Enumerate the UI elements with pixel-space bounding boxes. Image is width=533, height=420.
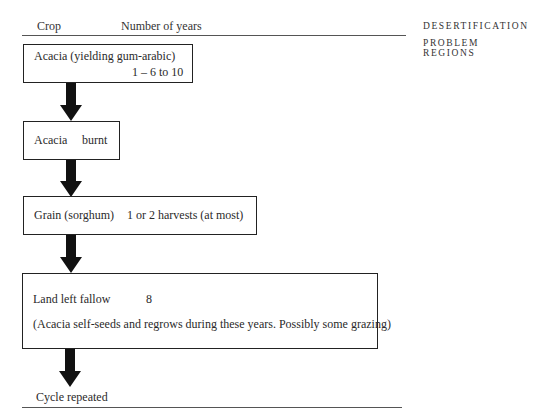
step-crop-label: Acacia [34,133,67,148]
flow-arrow-down-icon [60,235,82,273]
column-header-years: Number of years [121,19,202,34]
step-years-value: 1 – 6 to 10 [132,65,183,80]
bottom-rule [22,407,402,408]
flow-arrow-down-icon [60,83,82,121]
top-rule [22,35,406,36]
flow-arrow-down-icon [59,349,81,387]
step-crop-label: Land left fallow [33,292,110,307]
flow-arrow-down-icon [60,160,82,197]
step-box-fallow: Land left fallow 8 (Acacia self-seeds an… [22,273,378,349]
step-box-acacia-burnt: Acacia burnt [23,121,120,160]
step-box-grain: Grain (sorghum) 1 or 2 harvests (at most… [23,196,257,235]
step-box-acacia-gum: Acacia (yielding gum-arabic) 1 – 6 to 10 [23,44,193,83]
cycle-repeated-label: Cycle repeated [36,390,108,405]
side-title-line2: PROBLEM REGIONS [423,38,533,58]
step-years-value: burnt [82,133,107,148]
column-header-crop: Crop [37,19,61,34]
step-years-value: 1 or 2 harvests (at most) [127,208,243,223]
step-note: (Acacia self-seeds and regrows during th… [33,317,391,332]
step-crop-label: Acacia (yielding gum-arabic) [34,49,175,64]
step-years-value: 8 [146,292,152,307]
step-crop-label: Grain (sorghum) [34,208,114,223]
side-title-line1: DESERTIFICATION [423,21,529,31]
